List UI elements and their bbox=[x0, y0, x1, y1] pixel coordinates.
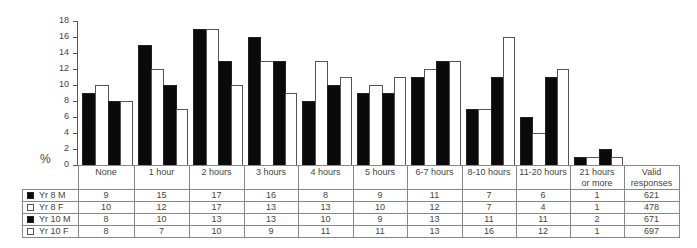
column-header: None bbox=[78, 166, 134, 190]
value-cell: 9 bbox=[353, 214, 407, 226]
value-cell: 7 bbox=[134, 226, 189, 238]
y-tick bbox=[73, 133, 77, 134]
y-tick-label: 16 bbox=[49, 31, 69, 41]
column-header: 4 hours bbox=[298, 166, 353, 190]
bar-yr-10-m-3-hours bbox=[273, 61, 286, 166]
legend-cell: Yr 8 M bbox=[23, 190, 79, 202]
valid-responses-header: Validresponses bbox=[624, 166, 679, 190]
column-header: 8-10 hours bbox=[462, 166, 516, 190]
column-header-line: Valid bbox=[625, 167, 679, 178]
y-tick bbox=[73, 53, 77, 54]
bar-yr-10-f-5-hours bbox=[394, 77, 406, 166]
bar-yr-8-f-6-7-hours bbox=[424, 69, 438, 166]
value-cell: 1 bbox=[570, 190, 624, 202]
table-row: Yr 8 M91517168911761621 bbox=[23, 190, 680, 202]
y-tick bbox=[73, 85, 77, 86]
value-cell: 10 bbox=[189, 226, 244, 238]
bar-yr-8-f-1-hour bbox=[151, 69, 165, 166]
bar-yr-8-m-4-hours bbox=[302, 101, 316, 166]
y-tick bbox=[73, 101, 77, 102]
y-tick bbox=[73, 149, 77, 150]
y-tick-label: 4 bbox=[49, 127, 69, 137]
table-row: Yr 10 M81013131091311112671 bbox=[23, 214, 680, 226]
value-cell: 11 bbox=[516, 214, 570, 226]
value-cell: 13 bbox=[298, 202, 353, 214]
bar-yr-8-m-none bbox=[82, 93, 96, 166]
bar-yr-8-m-11-20-hours bbox=[520, 117, 533, 166]
bar-yr-10-f-6-7-hours bbox=[449, 61, 462, 166]
bar-yr-8-f-3-hours bbox=[260, 61, 273, 166]
value-cell: 11 bbox=[462, 214, 516, 226]
value-cell: 13 bbox=[244, 214, 298, 226]
value-cell: 8 bbox=[78, 226, 134, 238]
y-tick-label: 6 bbox=[49, 111, 69, 121]
value-cell: 17 bbox=[189, 202, 244, 214]
value-cell: 17 bbox=[189, 190, 244, 202]
bar-yr-8-m-6-7-hours bbox=[411, 77, 425, 166]
bar-yr-8-m-3-hours bbox=[248, 37, 261, 166]
black-square-swatch-icon bbox=[27, 192, 34, 199]
value-cell: 2 bbox=[570, 214, 624, 226]
value-cell: 16 bbox=[462, 226, 516, 238]
bar-yr-8-f-4-hours bbox=[315, 61, 329, 166]
bar-yr-8-f-8-10-hours bbox=[478, 109, 491, 166]
value-cell: 9 bbox=[353, 190, 407, 202]
legend-cell: Yr 8 F bbox=[23, 202, 79, 214]
white-square-swatch-icon bbox=[27, 204, 34, 211]
series-name: Yr 8 F bbox=[39, 202, 64, 212]
value-cell: 10 bbox=[78, 202, 134, 214]
bar-yr-8-f-2-hours bbox=[206, 29, 220, 166]
bar-yr-8-m-8-10-hours bbox=[466, 109, 479, 166]
y-tick-label: 8 bbox=[49, 95, 69, 105]
y-tick-label: 18 bbox=[49, 15, 69, 25]
table-row: Yr 8 F10121713131012741478 bbox=[23, 202, 680, 214]
bar-yr-10-f-none bbox=[120, 101, 133, 166]
valid-responses-cell: 671 bbox=[624, 214, 679, 226]
bar-yr-8-m-1-hour bbox=[138, 45, 152, 166]
column-header-line: or more bbox=[571, 178, 624, 189]
value-cell: 16 bbox=[244, 190, 298, 202]
y-tick-label: 12 bbox=[49, 63, 69, 73]
value-cell: 13 bbox=[407, 214, 462, 226]
y-tick-label: 2 bbox=[49, 143, 69, 153]
value-cell: 1 bbox=[570, 202, 624, 214]
column-header: 2 hours bbox=[189, 166, 244, 190]
bar-yr-10-f-3-hours bbox=[285, 93, 297, 166]
legend-cell: Yr 10 M bbox=[23, 214, 79, 226]
value-cell: 12 bbox=[134, 202, 189, 214]
column-header: 3 hours bbox=[244, 166, 298, 190]
series-name: Yr 10 M bbox=[39, 214, 71, 224]
column-header: 5 hours bbox=[353, 166, 407, 190]
value-cell: 1 bbox=[570, 226, 624, 238]
value-cell: 11 bbox=[353, 226, 407, 238]
data-table: None1 hour2 hours3 hours4 hours5 hours6-… bbox=[22, 165, 680, 238]
column-header: 21 hoursor more bbox=[570, 166, 624, 190]
bar-yr-8-m-5-hours bbox=[357, 93, 370, 166]
y-tick bbox=[73, 117, 77, 118]
value-cell: 13 bbox=[407, 226, 462, 238]
bar-yr-10-m-6-7-hours bbox=[436, 61, 450, 166]
bar-yr-8-m-2-hours bbox=[193, 29, 207, 166]
bar-yr-10-f-4-hours bbox=[340, 77, 353, 166]
value-cell: 11 bbox=[407, 190, 462, 202]
bar-yr-10-m-1-hour bbox=[163, 85, 177, 166]
column-header: 1 hour bbox=[134, 166, 189, 190]
bar-yr-10-f-11-20-hours bbox=[557, 69, 569, 166]
value-cell: 7 bbox=[462, 190, 516, 202]
value-cell: 4 bbox=[516, 202, 570, 214]
value-cell: 13 bbox=[244, 202, 298, 214]
value-cell: 13 bbox=[189, 214, 244, 226]
bar-yr-10-m-8-10-hours bbox=[491, 77, 504, 166]
value-cell: 9 bbox=[78, 190, 134, 202]
column-header: 11-20 hours bbox=[516, 166, 570, 190]
value-cell: 10 bbox=[298, 214, 353, 226]
value-cell: 12 bbox=[407, 202, 462, 214]
valid-responses-cell: 478 bbox=[624, 202, 679, 214]
y-tick bbox=[73, 21, 77, 22]
value-cell: 8 bbox=[298, 190, 353, 202]
bar-yr-10-f-2-hours bbox=[231, 85, 244, 166]
table-row: Yr 10 F8710911111316121697 bbox=[23, 226, 680, 238]
y-tick-label: 10 bbox=[49, 79, 69, 89]
bar-yr-8-f-none bbox=[95, 85, 109, 166]
table-header-row: None1 hour2 hours3 hours4 hours5 hours6-… bbox=[23, 166, 680, 190]
